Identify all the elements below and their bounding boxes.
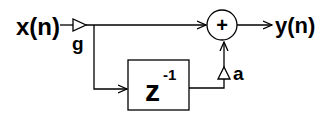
signal-flow-diagram: x(n) g z -1 a + y(n) (0, 0, 332, 115)
delay-label: z (145, 74, 160, 107)
sum-symbol: + (216, 14, 228, 36)
feedback-line (189, 79, 224, 88)
gain-a-triangle-icon (218, 67, 230, 79)
delay-exponent: -1 (163, 66, 176, 83)
gain-g-label: g (72, 33, 84, 54)
input-label: x(n) (16, 13, 60, 40)
delay-input-line (94, 25, 127, 89)
gain-a-label: a (233, 63, 244, 84)
gain-g-triangle-icon (73, 19, 86, 31)
output-label: y(n) (275, 13, 315, 38)
